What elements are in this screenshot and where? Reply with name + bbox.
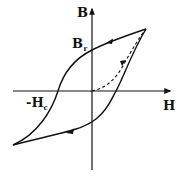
upper-branch-arrow-icon (106, 39, 113, 45)
hysteresis-diagram: B H B r -H c (0, 0, 182, 177)
h-axis-label: H (163, 98, 175, 113)
remanence-label: B (72, 36, 83, 51)
remanence-subscript: r (84, 44, 88, 53)
coercivity-subscript: c (44, 103, 48, 112)
b-axis-label: B (77, 5, 88, 20)
coercivity-label: -H (26, 95, 44, 110)
